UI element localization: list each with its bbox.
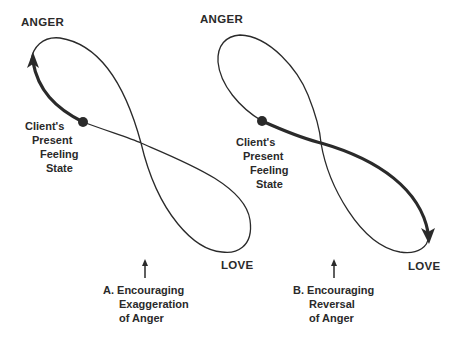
figure-a-love-label: LOVE	[221, 258, 254, 272]
state-line: State	[256, 177, 289, 191]
figure-a-caption: A. Encouraging Exaggeration of Anger	[103, 283, 189, 325]
state-line: Client's	[25, 119, 79, 133]
caption-line: Reversal	[309, 297, 374, 311]
caption-line: of Anger	[119, 311, 189, 325]
caption-b-pointer	[331, 259, 337, 278]
state-line: Present	[243, 149, 289, 163]
figure-a-state-label: Client's Present Feeling State	[25, 119, 79, 175]
state-line: Feeling	[40, 147, 79, 161]
figure-a-state-dot	[78, 117, 88, 127]
state-line: Present	[32, 133, 79, 147]
figure-a-anger-label: ANGER	[21, 15, 64, 29]
caption-line: of Anger	[309, 311, 374, 325]
figure-b-state-dot	[257, 116, 267, 126]
figure-b-love-label: LOVE	[408, 259, 441, 273]
figure-b-state-label: Client's Present Feeling State	[236, 135, 289, 191]
state-line: Client's	[236, 135, 289, 149]
state-line: Feeling	[250, 163, 289, 177]
caption-a-pointer	[142, 259, 148, 278]
caption-line: B. Encouraging	[293, 283, 374, 297]
figure-b-caption: B. Encouraging Reversal of Anger	[293, 283, 374, 325]
caption-line: A. Encouraging	[103, 283, 189, 297]
figure-a-exaggeration-arrow	[33, 62, 83, 122]
caption-b-up-arrow-icon	[331, 259, 337, 266]
caption-a-up-arrow-icon	[142, 259, 148, 266]
caption-line: Exaggeration	[119, 297, 189, 311]
state-line: State	[46, 161, 79, 175]
figure-b-anger-label: ANGER	[200, 12, 243, 26]
